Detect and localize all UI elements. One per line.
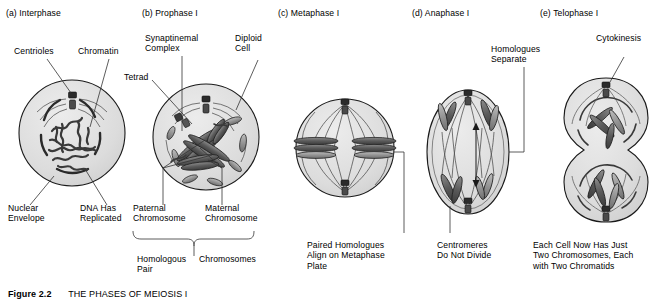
centriole-pair-e-bottom [602, 206, 610, 221]
centriole-pair-c-top [341, 99, 349, 114]
label-tetrad: Tetrad [124, 72, 148, 82]
label-diploid-cell: Diploid Cell [235, 33, 262, 54]
label-centrioles: Centrioles [14, 46, 54, 56]
centriole-pair-d-top [464, 90, 472, 105]
figure-caption: Figure 2.2 THE PHASES OF MEIOSIS I [8, 289, 187, 299]
centriole-pair-e-top [602, 82, 610, 97]
leader-cytokinesis [610, 57, 624, 82]
leader-diploid-cell [236, 60, 258, 110]
interphase-cell-drawing [19, 80, 125, 186]
label-cytokinesis: Cytokinesis [596, 33, 641, 43]
panel-title-anaphase-i: (d) Anaphase I [412, 8, 469, 18]
telophase-cell-drawing [564, 78, 648, 222]
label-centromeres-do-not-divide: Centromeres Do Not Divide [437, 240, 491, 261]
metaphase-cell-drawing [294, 99, 396, 197]
leader-paired-homologues [394, 152, 404, 233]
label-paired-homologues-align: Paired Homologues Align on Metaphase Pla… [307, 240, 385, 271]
label-maternal-chromosome: Maternal Chromosome [205, 203, 258, 224]
label-homologous-pair: Homologous Pair [137, 254, 186, 275]
centriole-pair-c-bottom [341, 180, 349, 195]
panel-title-metaphase-i: (c) Metaphase I [278, 8, 339, 18]
figure-caption-label: Figure 2.2 [8, 289, 52, 299]
label-chromatin: Chromatin [78, 46, 119, 56]
figure-caption-text: THE PHASES OF MEIOSIS I [68, 289, 187, 299]
label-each-cell-now-has: Each Cell Now Has Just Two Chromosomes, … [533, 240, 634, 271]
bracket-homologous-pair [133, 231, 254, 246]
label-homologues-separate: Homologues Separate [491, 44, 540, 65]
leader-homologues-separate [509, 67, 524, 152]
centriole-pair-d-bottom [464, 198, 472, 213]
label-synaptinemal-complex: Synaptinemal Complex [145, 33, 198, 54]
centriole-pair-a [69, 92, 77, 109]
leader-nuclear-envelope [30, 176, 54, 205]
label-chromosomes: Chromosomes [199, 254, 256, 264]
panel-title-prophase-i: (b) Prophase I [142, 8, 198, 18]
prophase-cell-drawing [153, 84, 259, 190]
panel-title-interphase: (a) Interphase [6, 8, 61, 18]
label-paternal-chromosome: Paternal Chromosome [133, 203, 186, 224]
label-nuclear-envelope: Nuclear Envelope [8, 203, 45, 224]
panel-title-telophase-i: (e) Telophase I [540, 8, 598, 18]
anaphase-cell-drawing [427, 90, 509, 214]
centriole-pair-b [202, 96, 210, 113]
label-dna-has-replicated: DNA Has Replicated [80, 203, 122, 224]
